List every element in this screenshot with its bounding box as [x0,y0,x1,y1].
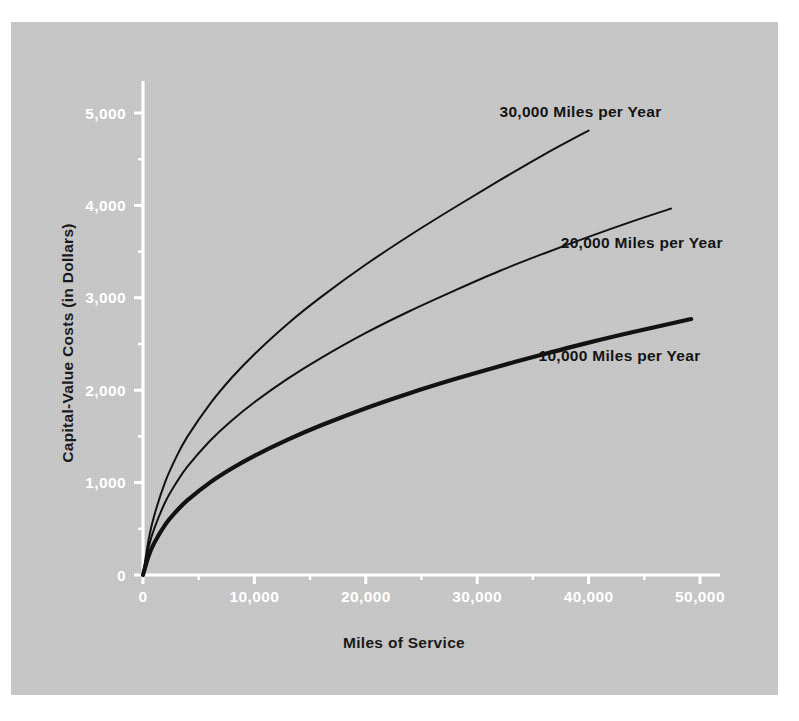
y-tick-label: 4,000 [85,197,126,214]
series-label: 30,000 Miles per Year [499,103,661,120]
y-tick-label: 1,000 [85,474,126,491]
series-label: 20,000 Miles per Year [561,234,723,251]
y-tick-label: 2,000 [85,382,126,399]
x-tick-label: 10,000 [229,588,279,605]
x-tick-label: 30,000 [452,588,502,605]
y-tick-label: 5,000 [85,105,126,122]
x-axis-title: Miles of Service [343,634,465,651]
series-curve [143,209,671,575]
x-tick-label: 20,000 [341,588,391,605]
figure-container: 01,0002,0003,0004,0005,000010,00020,0003… [0,0,799,721]
series-labels-group: 30,000 Miles per Year20,000 Miles per Ye… [499,103,722,364]
x-tick-label: 40,000 [564,588,614,605]
x-tick-label: 0 [138,588,147,605]
y-tick-label: 3,000 [85,289,126,306]
series-curve [143,131,589,575]
x-tick-label: 50,000 [675,588,725,605]
y-axis-title: Capital-Value Costs (in Dollars) [59,223,76,463]
chart-plot: 01,0002,0003,0004,0005,000010,00020,0003… [0,0,799,721]
y-tick-label: 0 [117,567,126,584]
series-label: 10,000 Miles per Year [538,347,700,364]
